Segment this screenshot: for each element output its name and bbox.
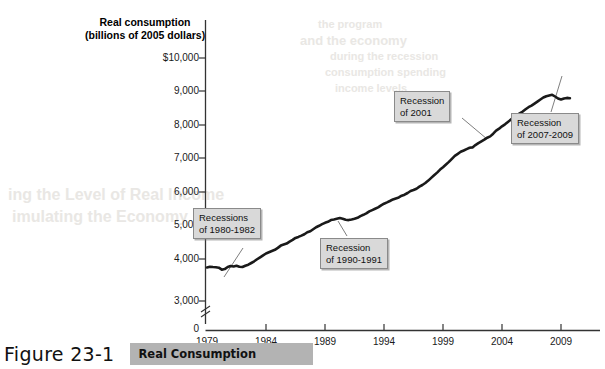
annotation-line-2: of 1980-1982: [199, 224, 255, 236]
figure-caption-band: Real Consumption: [130, 343, 313, 365]
figure-caption-text: Real Consumption: [138, 347, 256, 361]
annotation-recession-1990-1991: Recession of 1990-1991: [320, 238, 388, 269]
annotation-line-1: Recession: [400, 95, 444, 107]
annotation-line-1: Recession: [326, 242, 382, 254]
annotation-line-2: of 2007-2009: [517, 129, 573, 141]
annotation-line-1: Recessions: [199, 212, 255, 224]
annotation-line-1: Recession: [517, 117, 573, 129]
leader-line-2001: [462, 118, 487, 139]
annotation-recession-2001: Recession of 2001: [394, 91, 450, 122]
leader-line-1980-1982: [224, 248, 243, 277]
figure-caption-row: Figure 23-1 Real Consumption: [0, 338, 605, 369]
figure-container: the program and the economy during the r…: [0, 0, 605, 369]
leader-line-1990-1991: [338, 221, 347, 236]
annotation-line-2: of 1990-1991: [326, 254, 382, 266]
chart-plot-area: [0, 0, 605, 369]
annotation-line-2: of 2001: [400, 107, 444, 119]
callout-leader-lines: [224, 76, 562, 277]
annotation-recession-2007-2009: Recession of 2007-2009: [511, 113, 579, 144]
figure-number: Figure 23-1: [4, 343, 114, 365]
annotation-recessions-1980-1982: Recessions of 1980-1982: [193, 208, 261, 239]
